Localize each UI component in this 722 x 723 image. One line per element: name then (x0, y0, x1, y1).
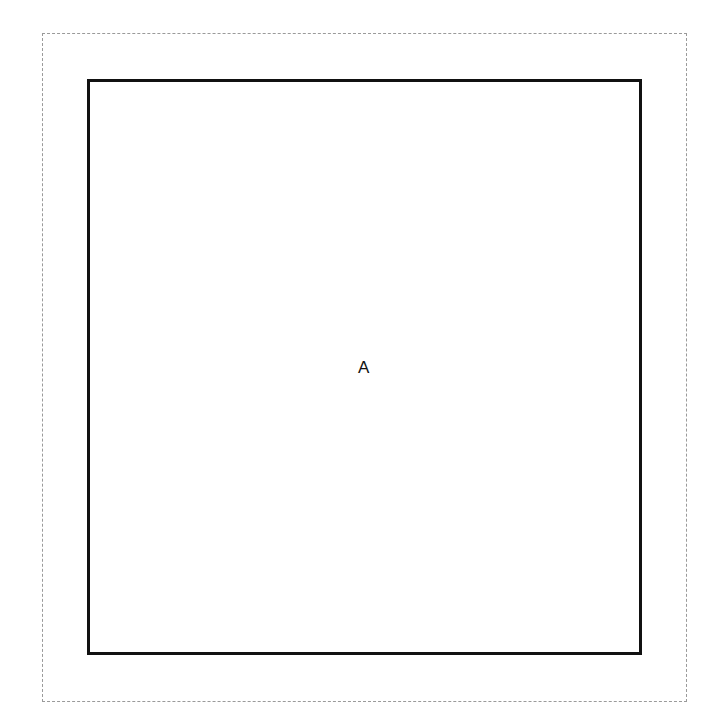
box-a-label: A (358, 359, 369, 376)
